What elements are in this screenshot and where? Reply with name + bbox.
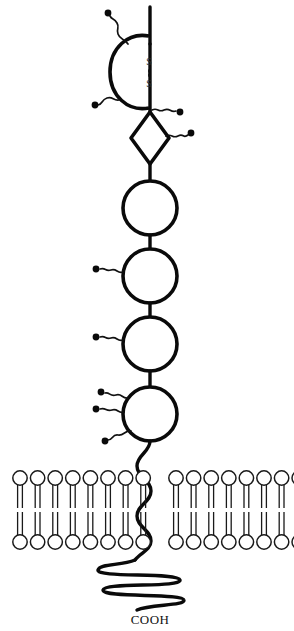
glycosylation-site-8 bbox=[93, 406, 124, 413]
diagram-canvas: S S bbox=[0, 0, 294, 631]
glycosylation-site-9 bbox=[102, 431, 131, 445]
lipid-molecule bbox=[48, 471, 62, 549]
lipid-molecule bbox=[292, 471, 294, 549]
ig-domain-1 bbox=[123, 181, 177, 235]
disulfide-lower-label: S bbox=[146, 78, 152, 89]
disulfide-upper-label: S bbox=[146, 56, 152, 67]
lipid-molecule bbox=[239, 471, 253, 549]
diamond-domain bbox=[131, 112, 169, 181]
lipid-bilayer-right bbox=[169, 471, 294, 549]
lipid-molecule bbox=[101, 471, 115, 549]
lipid-molecule bbox=[204, 471, 218, 549]
ig-domain-3 bbox=[123, 317, 177, 371]
glycosylation-site-3 bbox=[152, 109, 183, 116]
glycosylation-site-7 bbox=[98, 389, 128, 399]
lipid-molecule bbox=[30, 471, 44, 549]
lipid-molecule bbox=[169, 471, 183, 549]
lipid-molecule bbox=[186, 471, 200, 549]
lipid-molecule bbox=[66, 471, 80, 549]
glycosylation-site-6 bbox=[93, 334, 123, 341]
lipid-molecule bbox=[222, 471, 236, 549]
ig-domain-2 bbox=[123, 249, 177, 303]
lipid-molecule bbox=[118, 471, 132, 549]
lipid-molecule bbox=[257, 471, 271, 549]
lipid-bilayer-left bbox=[13, 471, 151, 549]
lipid-molecule bbox=[83, 471, 97, 549]
c-terminus-label: COOH bbox=[131, 612, 169, 627]
cytoplasmic-tail bbox=[98, 560, 184, 610]
ig-domain-4 bbox=[123, 387, 177, 441]
lipid-molecule bbox=[13, 471, 27, 549]
glycosylation-site-5 bbox=[93, 266, 123, 273]
glycosylation-site-4 bbox=[166, 130, 194, 137]
receptor-diagram: S S bbox=[0, 0, 294, 631]
glycosylation-site-2 bbox=[92, 98, 119, 109]
glycosylation-site-1 bbox=[105, 10, 128, 44]
lipid-molecule bbox=[274, 471, 288, 549]
